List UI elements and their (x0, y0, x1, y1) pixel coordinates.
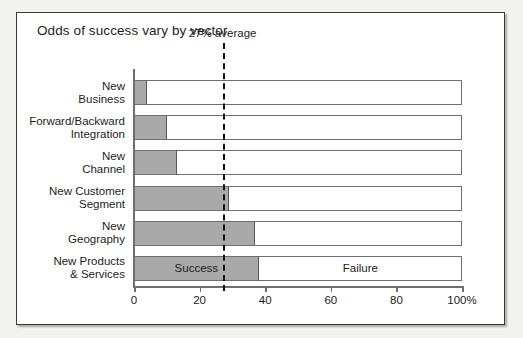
category-label: New Customer Segment (49, 185, 125, 211)
bar-failure-segment (134, 115, 462, 140)
category-label: Forward/Backward Integration (29, 115, 125, 141)
figure-canvas: Odds of success vary by vector New Busin… (0, 0, 523, 338)
bar-row: New Customer Segment (134, 186, 462, 211)
x-tick-label: 60 (324, 294, 337, 306)
category-label: New Geography (68, 220, 125, 246)
bar-failure-segment (134, 80, 462, 105)
bar-row: New Business (134, 80, 462, 105)
average-reference-label: 27% average (189, 27, 257, 39)
bar-row: Forward/Backward Integration (134, 115, 462, 140)
x-tick-label: 40 (259, 294, 272, 306)
chart-frame: Odds of success vary by vector New Busin… (16, 12, 505, 325)
bar-success-segment (134, 150, 177, 175)
bar-row: New Products & ServicesSuccessFailure (134, 256, 462, 281)
x-tick-label: 100% (447, 294, 476, 306)
bar-success-segment (134, 80, 147, 105)
bar-success-segment (134, 221, 255, 246)
bar-success-segment (134, 186, 229, 211)
x-tick-mark (331, 286, 333, 292)
x-tick-label: 0 (131, 294, 137, 306)
category-label: New Channel (82, 150, 125, 176)
bar-row: New Channel (134, 150, 462, 175)
x-axis-line (133, 286, 463, 288)
average-reference-line (223, 43, 225, 291)
x-tick-mark (396, 286, 398, 292)
x-tick-mark (265, 286, 267, 292)
category-label: New Products & Services (53, 255, 125, 281)
bar-failure-segment (134, 150, 462, 175)
plot-area: New BusinessForward/Backward Integration… (134, 75, 462, 286)
bar-row: New Geography (134, 221, 462, 246)
bar-success-segment (134, 115, 167, 140)
x-tick-mark (462, 286, 464, 292)
category-label: New Business (78, 80, 125, 106)
x-tick-label: 80 (390, 294, 403, 306)
bar-success-segment (134, 256, 259, 281)
x-tick-mark (134, 286, 136, 292)
x-tick-label: 20 (193, 294, 206, 306)
x-tick-mark (200, 286, 202, 292)
